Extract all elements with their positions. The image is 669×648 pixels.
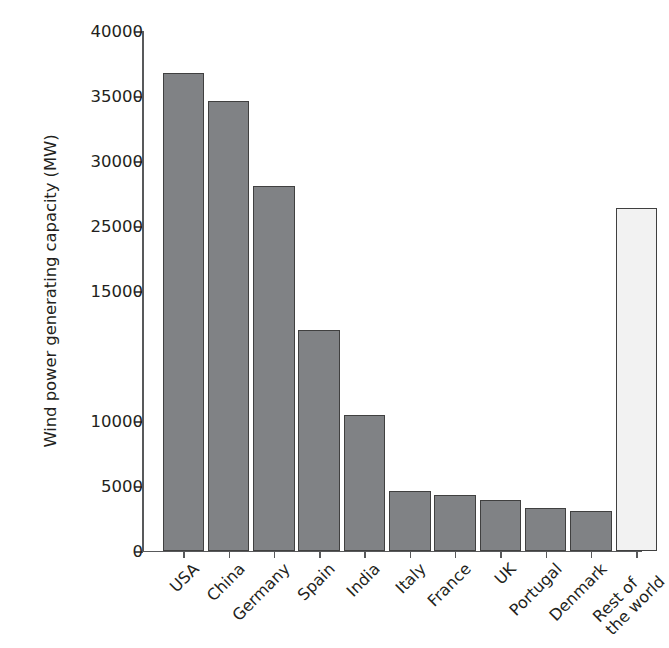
x-tick-mark <box>636 551 637 558</box>
y-tick-label: 0 <box>25 542 143 561</box>
x-tick-label: USA <box>167 560 203 596</box>
x-tick-label: UK <box>492 560 520 588</box>
bar-france <box>434 495 476 551</box>
bar-portugal <box>525 508 567 551</box>
x-tick-mark <box>410 551 411 558</box>
x-tick-mark <box>455 551 456 558</box>
x-tick-mark <box>274 551 275 558</box>
x-tick-mark <box>546 551 547 558</box>
bar-uk <box>480 500 522 551</box>
y-tick-label: 10000 <box>25 412 143 431</box>
x-tick-label: India <box>344 560 384 600</box>
y-tick-label: 25000 <box>25 217 143 236</box>
plot-area <box>143 31 642 551</box>
bar-denmark <box>570 511 612 551</box>
x-tick-mark <box>500 551 501 558</box>
x-tick-mark <box>183 551 184 558</box>
x-tick-mark <box>591 551 592 558</box>
y-tick-label: 30000 <box>25 152 143 171</box>
y-tick-label: 40000 <box>25 22 143 41</box>
x-tick-label: Spain <box>295 560 339 604</box>
bar-china <box>208 101 250 551</box>
bar-italy <box>389 491 431 551</box>
bar-usa <box>163 73 205 551</box>
x-tick-mark <box>229 551 230 558</box>
x-tick-label: France <box>424 560 474 610</box>
bar-spain <box>298 330 340 551</box>
bar-india <box>344 415 386 552</box>
y-tick-label: 5000 <box>25 477 143 496</box>
bar-germany <box>253 186 295 551</box>
y-tick-label: 35000 <box>25 87 143 106</box>
y-tick-label: 15000 <box>25 282 143 301</box>
bar-rest-of-the-world <box>616 208 658 551</box>
x-tick-mark <box>364 551 365 558</box>
x-tick-mark <box>319 551 320 558</box>
x-tick-label: Italy <box>392 560 429 597</box>
